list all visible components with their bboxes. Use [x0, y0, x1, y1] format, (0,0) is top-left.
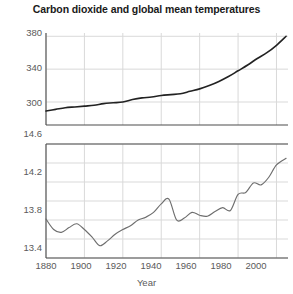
co2-line-series: [46, 36, 286, 111]
panel-frames: [46, 33, 288, 258]
plot-canvas: [0, 0, 293, 294]
gridlines-temperature: [46, 144, 288, 258]
temperature-line-series: [46, 158, 286, 245]
chart-figure: Carbon dioxide and global mean temperatu…: [0, 0, 293, 294]
gridlines-co2: [46, 33, 288, 125]
